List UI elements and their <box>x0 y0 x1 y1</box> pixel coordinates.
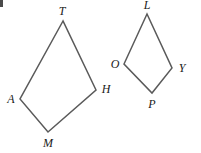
quadrilateral-lopy <box>124 14 172 93</box>
vertex-label-a: A <box>7 93 14 105</box>
quadrilateral-tamh <box>20 21 96 132</box>
vertex-label-p: P <box>148 98 155 110</box>
vertex-label-o: O <box>111 58 120 70</box>
vertex-label-t: T <box>59 5 66 17</box>
vertex-label-h: H <box>102 83 111 95</box>
vertex-label-l: L <box>144 0 151 11</box>
vertex-label-y: Y <box>179 62 186 74</box>
figure-svg <box>0 0 201 153</box>
vertex-label-m: M <box>43 137 53 149</box>
geometry-figure: TAMHLOPY <box>0 0 201 153</box>
